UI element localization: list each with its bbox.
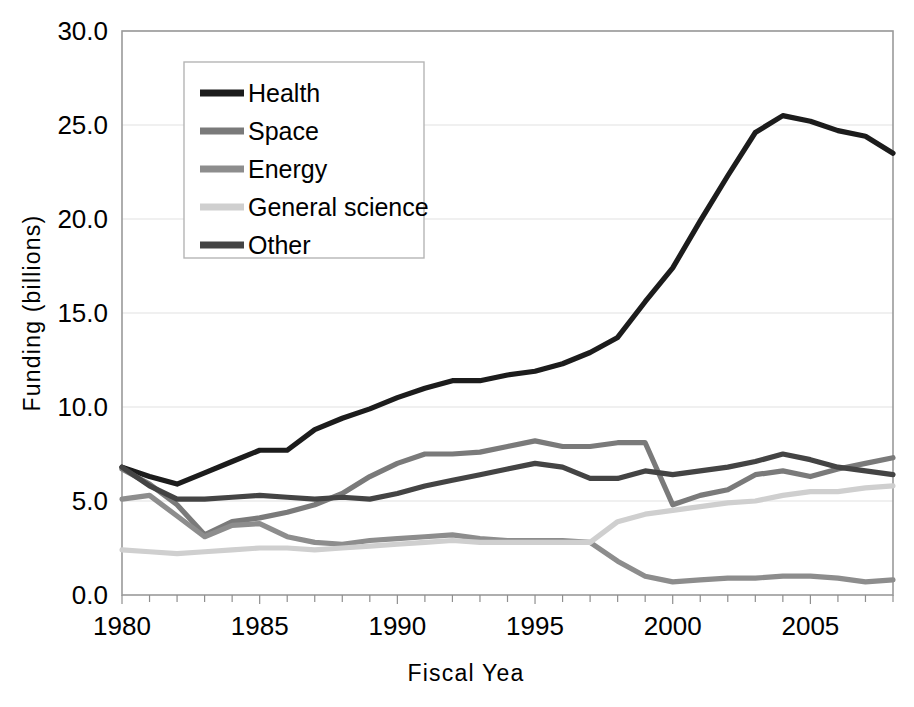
x-tick-label: 1990 — [368, 611, 426, 641]
x-axis-title: Fiscal Yea — [408, 660, 525, 686]
y-tick-label: 10.0 — [57, 392, 108, 422]
x-axis-tick-labels: 198019851990199520002005 — [93, 611, 839, 641]
y-axis-tick-labels: 0.05.010.015.020.025.030.0 — [57, 16, 108, 610]
legend-label-health: Health — [248, 79, 320, 107]
chart-container: 0.05.010.015.020.025.030.0 1980198519901… — [0, 0, 914, 707]
y-tick-label: 20.0 — [57, 204, 108, 234]
y-tick-label: 15.0 — [57, 298, 108, 328]
legend-label-other: Other — [248, 231, 311, 259]
x-tick-label: 1985 — [231, 611, 289, 641]
legend-label-energy: Energy — [248, 155, 328, 183]
x-axis-ticks — [122, 595, 893, 604]
line-chart: 0.05.010.015.020.025.030.0 1980198519901… — [0, 0, 914, 707]
x-tick-label: 2000 — [644, 611, 702, 641]
y-axis-title: Funding (billions) — [19, 215, 45, 412]
y-tick-label: 25.0 — [57, 110, 108, 140]
y-tick-label: 30.0 — [57, 16, 108, 46]
x-tick-label: 1995 — [506, 611, 564, 641]
y-tick-label: 0.0 — [72, 580, 108, 610]
legend-label-space: Space — [248, 117, 319, 145]
y-tick-label: 5.0 — [72, 486, 108, 516]
legend-label-general-science: General science — [248, 193, 429, 221]
x-tick-label: 1980 — [93, 611, 151, 641]
x-tick-label: 2005 — [781, 611, 839, 641]
legend: HealthSpaceEnergyGeneral scienceOther — [184, 62, 429, 259]
